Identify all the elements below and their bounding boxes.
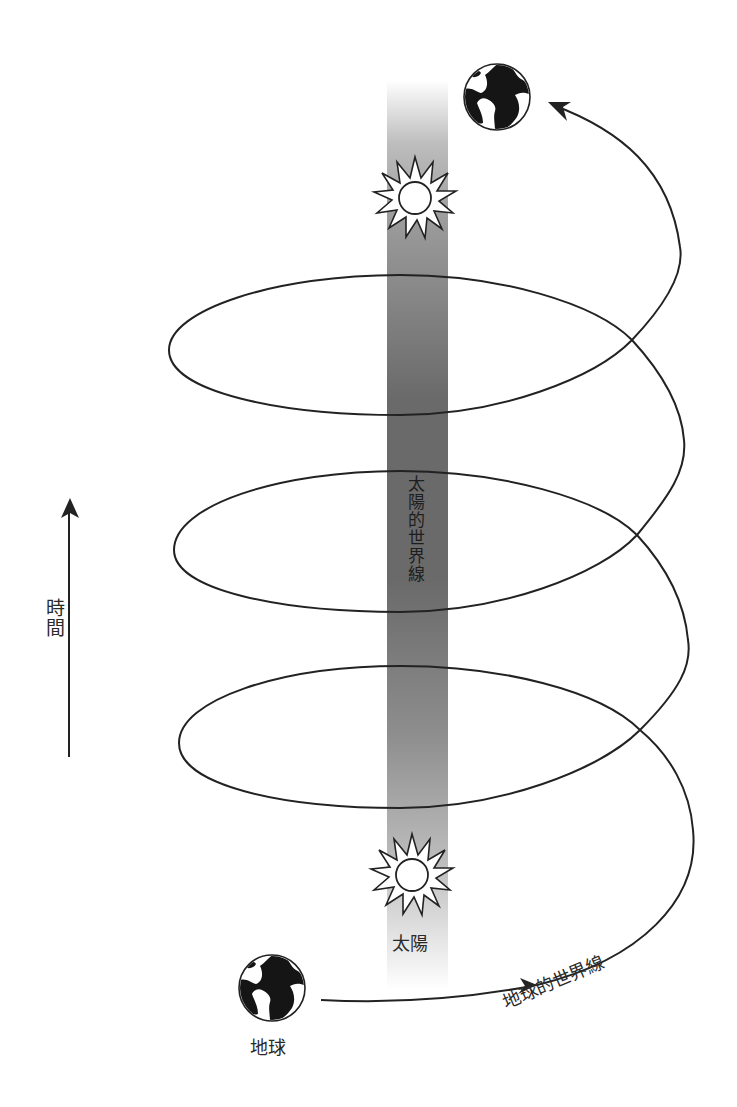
- earth-label: 地球: [250, 1033, 286, 1059]
- worldline-diagram: [0, 0, 737, 1107]
- sun-label: 太陽: [392, 929, 428, 955]
- time-axis-label: 時間: [41, 598, 68, 638]
- earth-top-icon: [463, 63, 531, 131]
- earth-bottom-icon: [238, 954, 306, 1022]
- sun-worldline-label: 太陽的世界線: [403, 475, 428, 583]
